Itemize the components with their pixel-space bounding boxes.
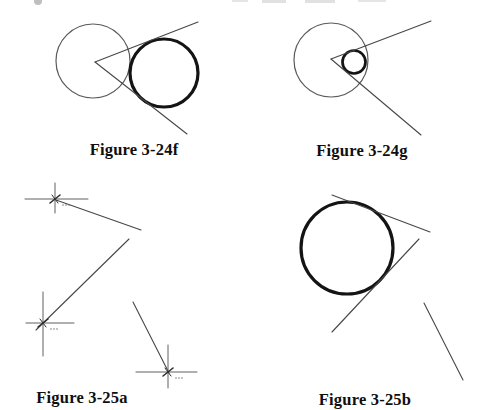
figure-caption-3-25b: Figure 3-25b <box>319 392 411 409</box>
large-thin-circle <box>294 23 368 97</box>
figure-3-25a <box>25 183 197 388</box>
lower-angle-ray <box>331 59 421 135</box>
lower-angle-ray <box>95 62 187 134</box>
large-thin-circle <box>56 24 130 98</box>
point-marker-dot <box>62 204 63 205</box>
point-marker-dot <box>178 377 179 378</box>
point-marker-dot <box>175 377 176 378</box>
point-marker-dot <box>68 204 69 205</box>
detached-segment <box>424 303 463 380</box>
construction-segment <box>36 239 129 330</box>
point-marker-dot <box>56 328 57 329</box>
figure-3-25b <box>301 195 463 380</box>
figure-3-24g <box>294 21 431 135</box>
figure-caption-3-25a: Figure 3-25a <box>36 390 127 407</box>
large-thick-circle <box>301 202 393 294</box>
point-marker-dot <box>53 328 54 329</box>
lower-tangent-line <box>332 239 419 332</box>
upper-tangent-line <box>332 195 430 232</box>
construction-segment <box>133 302 169 373</box>
figure-caption-3-24f: Figure 3-24f <box>90 142 179 159</box>
point-marker-dot <box>181 377 182 378</box>
figure-caption-3-24g: Figure 3-24g <box>316 143 407 160</box>
point-marker-dot <box>65 204 66 205</box>
figures-canvas <box>0 0 491 410</box>
small-thick-circle <box>343 51 366 74</box>
point-marker-dot <box>50 328 51 329</box>
figure-3-24f <box>56 22 198 134</box>
